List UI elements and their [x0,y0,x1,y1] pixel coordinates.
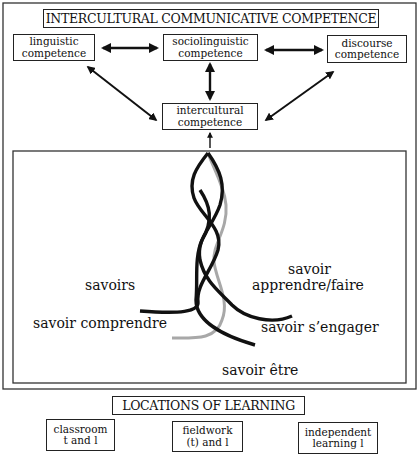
linguistic-competence-box: linguistic competence [13,34,95,61]
location-independent-box: independent learning l [298,422,378,454]
fieldwork-line2: (t) and l [186,437,228,448]
arrow-linguistic-intercultural [88,67,156,120]
sociolinguistic-competence-box: sociolinguistic competence [163,34,258,61]
arrow-discourse-intercultural [266,72,333,120]
locations-title: LOCATIONS OF LEARNING [122,399,295,412]
label-savoir-apprendre-1: savoir [288,262,331,277]
strand-savoir-apprendre [199,153,292,320]
location-fieldwork-box: fieldwork (t) and l [172,421,243,452]
label-savoir-apprendre-2: apprendre/faire [252,278,364,293]
sociolinguistic-line1: sociolinguistic [172,36,248,47]
label-savoir-etre: savoir être [222,363,298,378]
intercultural-line2: competence [178,117,242,128]
locations-title-box: LOCATIONS OF LEARNING [112,396,305,415]
top-title-box: INTERCULTURAL COMMUNICATIVE COMPETENCE [43,9,379,28]
label-savoir-engager: savoir s’engager [261,320,379,335]
fieldwork-line1: fieldwork [183,425,233,436]
label-savoir-comprendre: savoir comprendre [33,316,167,331]
linguistic-line2: competence [22,48,86,59]
location-classroom-box: classroom t and l [46,419,115,451]
sociolinguistic-line2: competence [178,48,242,59]
diagram-graphics [0,0,419,459]
intercultural-competence-box: intercultural competence [162,103,258,130]
independent-line2: learning l [312,438,363,449]
classroom-line2: t and l [64,435,98,446]
intercultural-line1: intercultural [176,105,243,116]
top-title: INTERCULTURAL COMMUNICATIVE COMPETENCE [46,12,377,25]
linguistic-line1: linguistic [29,36,78,47]
discourse-line2: competence [335,49,399,60]
discourse-competence-box: discourse competence [327,35,407,63]
label-savoirs: savoirs [85,278,135,293]
